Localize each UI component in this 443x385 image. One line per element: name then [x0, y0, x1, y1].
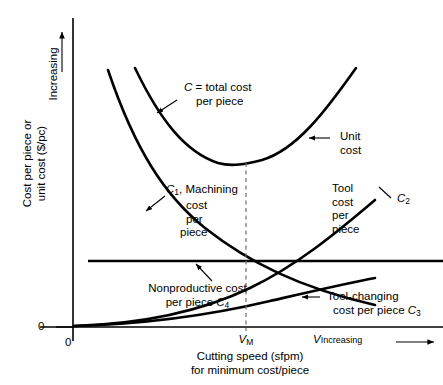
annotation-nonproductive-cost: Nonproductive costper piece C4: [110, 282, 285, 312]
unit-cost-line1: Unit: [340, 130, 360, 142]
annotation-unit-cost: Unitcost: [340, 130, 361, 157]
tool-changing-symbol: C: [408, 304, 416, 316]
x-axis-title-line1: Cutting speed (sfpm): [197, 350, 304, 362]
y-axis-title: Cost per piece orunit cost ($/pc): [21, 84, 48, 244]
vm-label: VM: [226, 333, 266, 349]
total-cost-line2: per piece: [184, 95, 243, 107]
tool-changing-subscript: 3: [416, 307, 421, 317]
c2-subscript: 2: [405, 196, 410, 206]
leader-total-cost: [157, 100, 177, 113]
tool-changing-line2: cost per piece: [327, 304, 408, 316]
nonproductive-symbol: C: [216, 296, 224, 308]
total-cost-line1: = total cost: [192, 81, 251, 93]
leader-tool-cost: [379, 187, 391, 198]
tool-cost-line1: Tool: [332, 182, 353, 194]
x-increasing-symbol: V: [313, 333, 321, 345]
x-origin-zero-label: 0: [65, 336, 71, 350]
annotation-c2-symbol: C2: [397, 192, 410, 208]
y-axis-title-line1: Cost per piece or: [21, 120, 33, 208]
leader-machining-cost: [146, 196, 165, 211]
vm-subscript: M: [246, 337, 253, 347]
unit-cost-line2: cost: [340, 144, 361, 156]
tool-cost-line2: cost: [332, 196, 353, 208]
leader-nonproductive-cost: [196, 264, 212, 281]
machining-line2: cost: [166, 199, 207, 211]
x-axis-title: Cutting speed (sfpm)for minimum cost/pie…: [160, 350, 340, 377]
machining-line4: piece: [166, 226, 208, 238]
nonproductive-line1: Nonproductive cost: [148, 282, 246, 294]
annotation-tool-cost: Toolcostperpiece: [332, 182, 360, 236]
annotation-tool-changing-cost: Tool-changingcost per piece C3: [327, 290, 421, 320]
y-zero-label: 0: [38, 320, 44, 334]
tool-changing-line1: Tool-changing: [327, 290, 399, 302]
cost-vs-cutting-speed-figure: Cost per piece orunit cost ($/pc) Increa…: [0, 0, 443, 385]
x-increasing-word: Increasing: [321, 335, 363, 345]
x-axis-title-line2: for minimum cost/piece: [191, 364, 309, 376]
annotation-machining-cost: C1, Machiningcostperpiece: [166, 183, 238, 240]
y-axis-increasing-label: Increasing: [47, 29, 59, 119]
x-increasing-label: VIncreasing: [313, 333, 362, 348]
y-axis-title-line2: unit cost ($/pc): [34, 126, 46, 201]
tool-cost-line4: piece: [332, 223, 360, 235]
nonproductive-subscript: 4: [225, 299, 230, 309]
nonproductive-line2: per piece: [166, 296, 217, 308]
annotation-total-cost: C = total costper piece: [184, 81, 251, 108]
machining-line3: per: [166, 213, 203, 225]
tool-cost-line3: per: [332, 209, 349, 221]
machining-line1-rest: , Machining: [179, 183, 238, 195]
